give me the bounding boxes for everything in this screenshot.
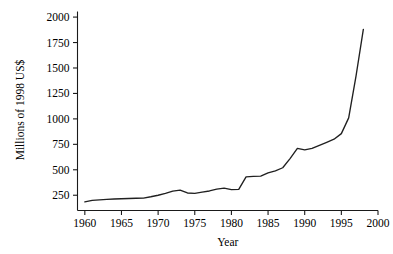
y-axis-title: Millions of 1998 US$ xyxy=(14,59,26,160)
x-axis-tick-label: 1980 xyxy=(220,217,243,229)
x-axis-tick-label: 1970 xyxy=(147,217,170,229)
x-axis-tick-label: 1975 xyxy=(183,217,206,229)
y-axis-tick-label: 500 xyxy=(52,164,70,176)
data-series-group xyxy=(85,29,364,202)
y-axis-tick-label: 1750 xyxy=(47,37,70,49)
x-axis-tick-label: 1965 xyxy=(110,217,133,229)
y-axis-tick-label: 1250 xyxy=(47,87,70,99)
line-chart: 25050075010001250150017502000 1960196519… xyxy=(0,0,393,254)
x-axis-tick-label: 1985 xyxy=(257,217,280,229)
data-line-0 xyxy=(85,29,364,202)
x-axis-tick-label: 2000 xyxy=(367,217,390,229)
y-axis-tick-label: 1000 xyxy=(47,113,70,125)
chart-figure: 25050075010001250150017502000 1960196519… xyxy=(0,0,393,254)
x-axis-title: Year xyxy=(217,236,238,248)
y-axis-tick-label: 2000 xyxy=(47,11,70,23)
y-axis-tick-label: 250 xyxy=(52,189,70,201)
y-axis-tick-label: 1500 xyxy=(47,62,70,74)
x-axis-tick-label: 1960 xyxy=(73,217,96,229)
x-axis-tick-label: 1990 xyxy=(293,217,316,229)
y-axis: 25050075010001250150017502000 xyxy=(47,11,78,210)
y-axis-tick-label: 750 xyxy=(52,138,70,150)
x-axis: 196019651970197519801985199019952000 xyxy=(73,211,389,229)
x-axis-tick-label: 1995 xyxy=(330,217,353,229)
